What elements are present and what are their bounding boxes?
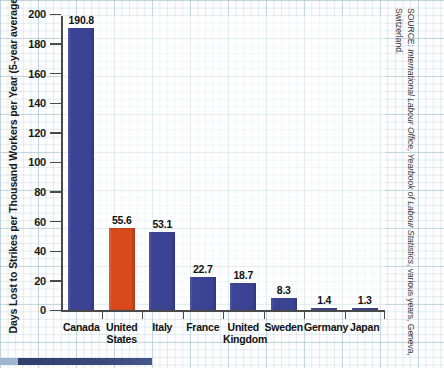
- y-tick-140: 140: [50, 103, 61, 104]
- y-tick-label: 80: [34, 186, 46, 198]
- y-tick-60: 60: [50, 221, 61, 222]
- y-tick-label: 200: [28, 8, 46, 20]
- bar-rect[interactable]: [271, 298, 297, 310]
- y-tick-100: 100: [50, 162, 61, 163]
- x-category-label: France: [183, 321, 224, 333]
- page-edge-strip-light: [0, 358, 18, 365]
- y-tick-0: 0: [50, 310, 61, 311]
- y-tick-label: 180: [28, 38, 46, 50]
- bar-value-label: 53.1: [152, 218, 172, 230]
- y-tick-label: 40: [34, 245, 46, 257]
- bar-rect[interactable]: [352, 308, 378, 311]
- bar-value-label: 55.6: [112, 214, 132, 226]
- x-tick: [223, 312, 224, 319]
- x-category-label: Sweden: [264, 321, 305, 333]
- bar-value-label: 1.4: [317, 294, 331, 306]
- bar-group[interactable]: 22.7: [190, 263, 216, 311]
- y-tick-20: 20: [50, 280, 61, 281]
- y-tick-120: 120: [50, 132, 61, 133]
- bar-rect[interactable]: [190, 277, 216, 311]
- y-tick-80: 80: [50, 191, 61, 192]
- chart-page: Days Lost to Strikes per Thousand Worker…: [0, 0, 444, 368]
- y-tick-200: 200: [50, 14, 61, 15]
- y-tick-label: 0: [40, 304, 46, 316]
- y-tick-label: 100: [28, 156, 46, 168]
- source-note: SOURCE: International Labour Office, Yea…: [393, 8, 416, 362]
- y-tick-label: 60: [34, 216, 46, 228]
- y-tick-40: 40: [50, 251, 61, 252]
- x-tick: [345, 312, 346, 319]
- bar-group[interactable]: 190.8: [68, 14, 94, 310]
- x-tick: [142, 312, 143, 319]
- x-category-label: Canada: [61, 321, 102, 333]
- bar-value-label: 1.3: [358, 294, 372, 306]
- x-category-label: United Kingdom: [223, 321, 264, 345]
- y-tick-label: 20: [34, 275, 46, 287]
- x-category-label: Italy: [142, 321, 183, 333]
- x-category-label: United States: [102, 321, 143, 345]
- bar-group[interactable]: 8.3: [271, 284, 297, 310]
- y-axis-line: [61, 16, 63, 312]
- plot-area: 020406080100120140160180200 190.855.653.…: [61, 16, 385, 312]
- bar-group[interactable]: 1.4: [311, 294, 337, 311]
- x-tick: [304, 312, 305, 319]
- y-tick-label: 120: [28, 127, 46, 139]
- y-tick-160: 160: [50, 73, 61, 74]
- y-tick-180: 180: [50, 43, 61, 44]
- source-prefix: SOURCE:: [406, 8, 416, 49]
- bar-group[interactable]: 1.3: [352, 294, 378, 311]
- x-tick: [384, 312, 385, 319]
- bar-group[interactable]: 18.7: [230, 269, 256, 311]
- x-category-label: Japan: [345, 321, 386, 333]
- source-publisher: International Labour Office,: [406, 49, 416, 153]
- x-tick: [102, 312, 103, 319]
- bar-rect[interactable]: [149, 232, 175, 311]
- bar-value-label: 18.7: [233, 269, 253, 281]
- bar-rect[interactable]: [68, 28, 94, 310]
- x-tick: [264, 312, 265, 319]
- page-edge-strip: [0, 358, 152, 365]
- bar-rect[interactable]: [230, 283, 256, 311]
- bar-rect[interactable]: [311, 308, 337, 311]
- page-edge-strip-dark: [18, 358, 152, 365]
- bar-group[interactable]: 55.6: [109, 214, 135, 310]
- x-tick: [183, 312, 184, 319]
- bar-rect[interactable]: [109, 228, 135, 310]
- y-axis-title: Days Lost to Strikes per Thousand Worker…: [4, 16, 22, 312]
- bar-value-label: 8.3: [277, 284, 291, 296]
- bar-value-label: 22.7: [193, 263, 213, 275]
- y-tick-label: 140: [28, 97, 46, 109]
- source-title: Yearbook of Labour Statistics: [406, 154, 416, 264]
- bar-value-label: 190.8: [69, 14, 94, 26]
- bar-group[interactable]: 53.1: [149, 218, 175, 311]
- y-tick-label: 160: [28, 68, 46, 80]
- x-category-label: Germany: [304, 321, 345, 333]
